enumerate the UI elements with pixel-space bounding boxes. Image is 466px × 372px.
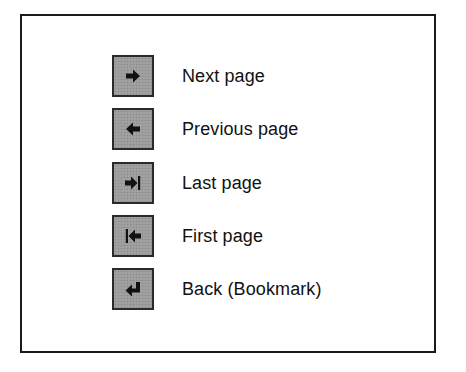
arrow-left-bar-icon [122,225,144,247]
legend-row-back-bookmark: Back (Bookmark) [112,268,322,310]
back-bookmark-button[interactable] [112,268,154,310]
next-page-label: Next page [182,66,265,87]
last-page-label: Last page [182,173,262,194]
legend-row-previous-page: Previous page [112,108,298,150]
legend-row-next-page: Next page [112,55,265,97]
back-bookmark-label: Back (Bookmark) [182,279,322,300]
arrow-right-bar-icon [122,172,144,194]
previous-page-button[interactable] [112,108,154,150]
last-page-button[interactable] [112,162,154,204]
next-page-button[interactable] [112,55,154,97]
arrow-left-icon [122,118,144,140]
legend-row-last-page: Last page [112,162,262,204]
arrow-right-icon [122,65,144,87]
previous-page-label: Previous page [182,119,298,140]
legend-row-first-page: First page [112,215,263,257]
return-arrow-icon [122,278,144,300]
first-page-button[interactable] [112,215,154,257]
navigation-legend-frame: Next page Previous page Last page First … [20,14,436,353]
first-page-label: First page [182,226,263,247]
